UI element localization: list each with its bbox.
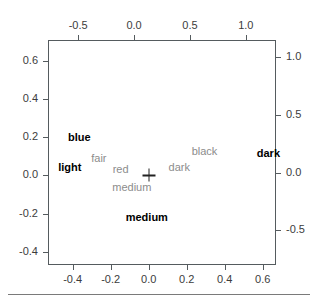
tick-bottom-0 <box>73 265 74 270</box>
tick-label-right-1: 0.5 <box>286 109 318 120</box>
tick-label-left-4: -0.2 <box>4 208 38 219</box>
tick-bottom-3 <box>187 265 188 270</box>
tick-label-left-1: 0.4 <box>4 93 38 104</box>
tick-label-right-0: 1.0 <box>286 51 318 62</box>
tick-left-4 <box>43 214 48 215</box>
tick-top-2 <box>190 35 191 40</box>
tick-label-bottom-2: 0.0 <box>129 274 169 285</box>
point-label-rows-medium: medium <box>126 211 168 222</box>
tick-label-left-2: 0.2 <box>4 131 38 142</box>
origin-cross-marker <box>142 169 155 182</box>
tick-label-top-2: 0.5 <box>170 20 210 31</box>
point-label-columns-black: black <box>192 146 218 157</box>
tick-right-1 <box>276 115 281 116</box>
tick-label-bottom-1: -0.2 <box>91 274 131 285</box>
point-label-columns-fair: fair <box>91 152 106 163</box>
tick-top-0 <box>78 35 79 40</box>
point-label-columns-medium: medium <box>112 182 151 193</box>
tick-left-1 <box>43 99 48 100</box>
tick-label-bottom-3: 0.2 <box>167 274 207 285</box>
bottom-separator-rule <box>8 294 310 295</box>
tick-label-right-2: 0.0 <box>286 167 318 178</box>
tick-label-left-5: -0.4 <box>4 246 38 257</box>
tick-right-3 <box>276 230 281 231</box>
tick-left-3 <box>43 175 48 176</box>
point-label-rows-blue: blue <box>68 132 91 143</box>
point-label-rows-light: light <box>58 162 81 173</box>
tick-bottom-1 <box>111 265 112 270</box>
tick-label-right-3: -0.5 <box>286 224 318 235</box>
tick-bottom-5 <box>263 265 264 270</box>
tick-label-bottom-4: 0.4 <box>205 274 245 285</box>
point-label-columns-dark: dark <box>169 161 190 172</box>
tick-top-1 <box>134 35 135 40</box>
point-label-columns-red: red <box>113 164 129 175</box>
tick-right-0 <box>276 57 281 58</box>
tick-label-top-3: 1.0 <box>226 20 266 31</box>
tick-label-top-0: -0.5 <box>58 20 98 31</box>
tick-label-bottom-5: 0.6 <box>243 274 283 285</box>
origin-cross-vertical <box>148 169 149 182</box>
tick-label-left-0: 0.6 <box>4 55 38 66</box>
tick-label-bottom-0: -0.4 <box>53 274 93 285</box>
tick-right-2 <box>276 173 281 174</box>
point-label-rows-dark: dark <box>257 148 280 159</box>
tick-top-3 <box>246 35 247 40</box>
tick-left-5 <box>43 252 48 253</box>
tick-left-0 <box>43 61 48 62</box>
tick-label-left-3: 0.0 <box>4 169 38 180</box>
plot-panel-box <box>48 40 276 265</box>
tick-left-2 <box>43 137 48 138</box>
correspondence-analysis-biplot: -0.4-0.20.00.20.40.6-0.50.00.51.00.60.40… <box>0 0 318 305</box>
tick-label-top-1: 0.0 <box>114 20 154 31</box>
tick-bottom-4 <box>225 265 226 270</box>
tick-bottom-2 <box>149 265 150 270</box>
